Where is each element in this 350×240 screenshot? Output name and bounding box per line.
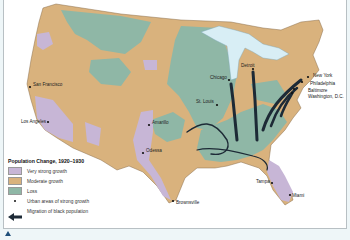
city-label-washington-dc: Washington, D.C. [308,95,344,100]
legend-item-loss: Loss [8,186,128,196]
growth-region-wyoming [143,60,157,70]
urban-dot-icon [8,200,22,202]
very-strong-growth-swatch [8,167,22,175]
legend-label: Urban areas of strong growth [27,199,89,204]
city-label-chicago: Chicago [210,76,227,81]
map-frame: San Francisco Los Angeles Amarillo Odess… [3,0,347,229]
legend-label: Very strong growth [27,169,67,174]
legend-label: Moderate growth [27,179,63,184]
growth-region-florida [267,160,293,202]
legend-label: Migration of black population [27,209,88,214]
city-label-detroit: Detroit [241,64,255,69]
city-label-san-francisco: San Francisco [33,83,62,88]
city-label-brownsville: Brownsville [176,201,199,206]
moderate-growth-swatch [8,177,22,185]
city-label-tampa: Tampa [256,180,270,185]
city-label-st-louis: St. Louis [196,100,214,105]
legend-label: Loss [27,189,37,194]
legend-item-migration: Migration of black population [8,206,128,216]
loss-swatch [8,187,22,195]
legend-item-urban-areas: Urban areas of strong growth [8,196,128,206]
city-label-new-york: New York [313,74,332,79]
city-label-odessa: Odessa [146,149,162,154]
migration-arrow-icon [8,207,22,215]
legend-title: Population Change, 1920–1930 [8,158,128,164]
city-label-los-angeles: Los Angeles [21,120,46,125]
city-label-baltimore: Baltimore [308,89,327,94]
scroll-up-icon[interactable] [5,231,11,236]
map-legend: Population Change, 1920–1930 Very strong… [8,158,128,216]
legend-item-very-strong-growth: Very strong growth [8,166,128,176]
city-label-philadelphia: Philadelphia [310,82,335,87]
city-label-miami: Miami [292,194,304,199]
legend-item-moderate-growth: Moderate growth [8,176,128,186]
city-label-amarillo: Amarillo [152,121,169,126]
